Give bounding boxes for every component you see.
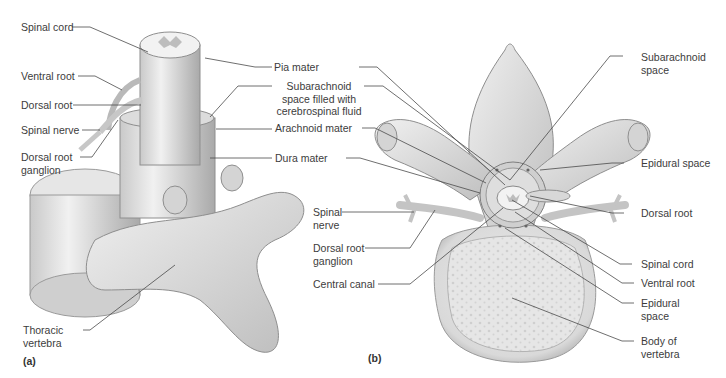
label-line: space filled with	[266, 93, 372, 106]
label-line: Dorsal root	[313, 242, 364, 255]
label-spinal-nerve-b: Spinal nerve	[313, 206, 342, 231]
label-line: Spinal	[313, 206, 342, 219]
label-spinal-cord-b: Spinal cord	[641, 258, 694, 271]
panel-tag-a: (a)	[23, 355, 36, 367]
label-spinal-cord-a: Spinal cord	[21, 21, 74, 34]
label-line: space	[641, 64, 706, 77]
label-line: Dorsal root	[21, 151, 72, 164]
label-line: space	[641, 310, 680, 323]
label-epidural-space-bottom: Epidural space	[641, 297, 680, 322]
label-dorsal-root-ganglion-a: Dorsal root ganglion	[21, 151, 72, 176]
label-line: ganglion	[313, 255, 364, 268]
label-spinal-nerve-a: Spinal nerve	[21, 124, 79, 137]
label-line: Thoracic	[23, 324, 63, 337]
label-arachnoid-mater: Arachnoid mater	[275, 122, 352, 135]
label-ventral-root-b: Ventral root	[641, 277, 695, 290]
label-line: Epidural	[641, 297, 680, 310]
label-line: vertebra	[641, 348, 680, 361]
label-line: Subarachnoid	[641, 51, 706, 64]
label-line: nerve	[313, 219, 342, 232]
panel-b-illustration	[375, 44, 650, 362]
label-ventral-root-a: Ventral root	[21, 70, 75, 83]
label-dura-mater: Dura mater	[275, 152, 328, 165]
label-dorsal-root-a: Dorsal root	[21, 99, 72, 112]
label-dorsal-root-ganglion-b: Dorsal root ganglion	[313, 242, 364, 267]
label-line: ganglion	[21, 164, 72, 177]
label-dorsal-root-b: Dorsal root	[641, 207, 692, 220]
label-line: cerebrospinal fluid	[266, 105, 372, 118]
label-pia-mater: Pia mater	[274, 61, 319, 74]
label-central-canal: Central canal	[313, 278, 375, 291]
label-subarachnoid-csf: Subarachnoid space filled with cerebrosp…	[266, 80, 372, 118]
panel-tag-b: (b)	[368, 352, 381, 364]
label-line: Body of	[641, 335, 680, 348]
label-epidural-space-top: Epidural space	[641, 157, 710, 170]
label-body-of-vertebra: Body of vertebra	[641, 335, 680, 360]
illustration	[0, 0, 726, 378]
label-subarachnoid-space-b: Subarachnoid space	[641, 51, 706, 76]
label-line: Subarachnoid	[266, 80, 372, 93]
spinal-cord-anatomy-figure: Spinal cord Ventral root Dorsal root Spi…	[0, 0, 726, 378]
label-line: vertebra	[23, 337, 63, 350]
label-thoracic-vertebra: Thoracic vertebra	[23, 324, 63, 349]
